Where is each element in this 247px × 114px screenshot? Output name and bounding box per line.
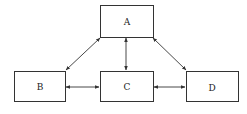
node-d-label: D: [208, 83, 215, 93]
node-b-label: B: [37, 82, 44, 92]
node-c-label: C: [124, 82, 131, 92]
node-d: D: [187, 72, 239, 102]
diagram-canvas: A B C D: [0, 0, 247, 114]
node-a: A: [101, 6, 154, 38]
edge-a-d: [153, 38, 186, 70]
node-b: B: [15, 72, 66, 102]
node-a-label: A: [123, 17, 131, 27]
node-c: C: [101, 72, 154, 102]
edge-a-b: [66, 38, 100, 70]
